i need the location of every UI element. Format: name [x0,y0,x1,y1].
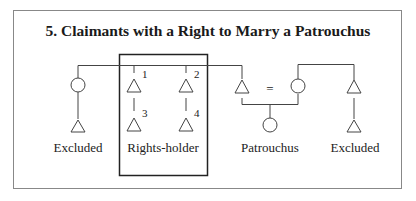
label-right-excluded: Excluded [330,140,380,155]
number-1: 1 [142,68,148,80]
number-4: 4 [194,107,200,119]
label-left-excluded: Excluded [53,140,103,155]
female-circle-patrouchus [263,118,277,132]
female-circle-mother [291,79,305,93]
kinship-diagram: 5. Claimants with a Right to Marry a Pat… [0,0,416,201]
female-circle-left-sister [71,78,85,92]
label-rights-holder: Rights-holder [127,140,199,155]
label-patrouchus: Patrouchus [241,140,299,155]
number-2: 2 [194,68,200,80]
number-3: 3 [142,107,148,119]
marriage-equals-sign: = [266,81,273,96]
figure-title: 5. Claimants with a Right to Marry a Pat… [46,22,371,39]
